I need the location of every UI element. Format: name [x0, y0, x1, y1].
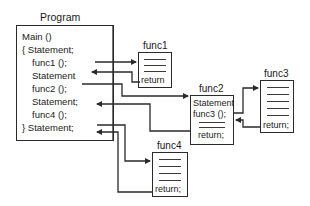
arrow-return-func1: [92, 72, 140, 82]
arrow-call-func2: [82, 84, 188, 96]
call-flow-arrows: [0, 0, 310, 206]
arrow-return-func3: [236, 120, 261, 127]
arrow-call-func3: [234, 88, 258, 113]
arrow-return-func2: [97, 104, 190, 131]
arrow-call-func4: [97, 125, 150, 161]
